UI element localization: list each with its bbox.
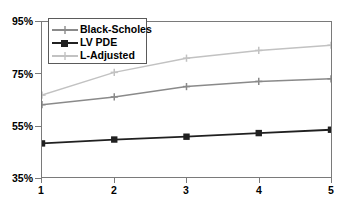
data-point-marker: [42, 101, 46, 108]
data-point-marker: [255, 47, 262, 54]
x-axis-label-3: 4: [249, 185, 269, 196]
data-point-marker: [327, 75, 331, 82]
plus-marker-icon: [61, 26, 69, 34]
data-point-marker: [183, 83, 190, 90]
legend-entry-l-adjusted: L-Adjusted: [52, 49, 146, 62]
x-tick-mark-4: [331, 178, 332, 183]
data-point-marker: [256, 130, 262, 136]
x-axis-label-4: 5: [321, 185, 341, 196]
y-axis-label-2: 55%: [0, 121, 33, 132]
data-point-marker: [111, 69, 118, 76]
series-lv-pde: [42, 127, 331, 147]
x-tick-mark-1: [114, 178, 115, 183]
y-axis-label-1: 75%: [0, 69, 33, 80]
plus-marker-icon: [61, 52, 69, 60]
data-point-marker: [327, 42, 331, 49]
data-point-marker: [183, 55, 190, 62]
data-point-marker: [255, 78, 262, 85]
square-marker-icon: [61, 40, 68, 47]
data-point-marker: [111, 136, 117, 142]
data-point-marker: [183, 134, 189, 140]
legend-entry-lv-pde: LV PDE: [52, 36, 146, 49]
series-black-scholes: [42, 75, 331, 108]
x-tick-mark-0: [41, 178, 42, 183]
data-point-marker: [42, 140, 45, 146]
legend-label-black-scholes: Black-Scholes: [80, 24, 152, 35]
x-tick-mark-3: [259, 178, 260, 183]
series-line: [42, 79, 331, 105]
data-point-marker: [111, 93, 118, 100]
chart-legend: Black-Scholes LV PDE L-Adjusted: [48, 18, 147, 64]
x-tick-mark-2: [186, 178, 187, 183]
legend-entry-black-scholes: Black-Scholes: [52, 23, 146, 36]
legend-label-lv-pde: LV PDE: [80, 37, 117, 48]
legend-swatch-lv-pde: [52, 37, 78, 48]
x-axis-label-0: 1: [31, 185, 51, 196]
legend-swatch-l-adjusted: [52, 50, 78, 61]
data-point-marker: [42, 92, 46, 99]
y-axis-label-0: 95%: [0, 16, 33, 27]
legend-label-l-adjusted: L-Adjusted: [80, 50, 135, 61]
data-point-marker: [328, 127, 331, 133]
y-axis-label-3: 35%: [0, 173, 33, 184]
x-axis-label-1: 2: [104, 185, 124, 196]
x-axis-label-2: 3: [176, 185, 196, 196]
legend-swatch-black-scholes: [52, 24, 78, 35]
chart-figure: 95% 75% 55% 35% 1 2 3 4 5 Black-Scholes: [0, 0, 348, 199]
